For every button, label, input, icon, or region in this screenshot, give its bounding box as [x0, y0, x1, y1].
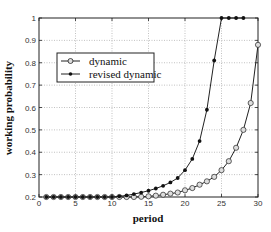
y-tick-label: 0.9	[25, 36, 37, 45]
y-tick-label: 0.5	[25, 126, 37, 135]
x-tick-label: 10	[108, 199, 117, 208]
x-tick-label: 20	[181, 199, 190, 208]
x-axis-label: period	[133, 212, 164, 224]
data-series	[44, 16, 261, 200]
legend-item-dynamic: dynamic	[89, 55, 127, 67]
y-tick-label: 1	[32, 14, 37, 23]
y-tick-label: 0.6	[25, 104, 37, 113]
y-axis-ticks: 0.20.30.40.50.60.70.80.91	[25, 14, 258, 202]
x-tick-label: 5	[73, 199, 78, 208]
circle-marker-icon	[68, 59, 73, 64]
x-axis-ticks: 051015202530	[37, 18, 263, 208]
x-tick-label: 15	[144, 199, 153, 208]
x-tick-label: 30	[254, 199, 263, 208]
grid-lines	[39, 18, 258, 197]
y-tick-label: 0.3	[25, 171, 37, 180]
y-tick-label: 0.7	[25, 81, 37, 90]
line-chart: 051015202530 0.20.30.40.50.60.70.80.91 p…	[0, 0, 271, 232]
x-tick-label: 25	[217, 199, 226, 208]
y-tick-label: 0.2	[25, 193, 37, 202]
dot-marker-icon	[69, 72, 73, 76]
y-tick-label: 0.4	[25, 148, 37, 157]
legend-item-revised-dynamic: revised dynamic	[89, 68, 162, 80]
y-tick-label: 0.8	[25, 59, 37, 68]
legend: dynamic revised dynamic	[57, 53, 162, 82]
y-axis-label: working probability	[2, 60, 14, 155]
x-tick-label: 0	[37, 199, 42, 208]
